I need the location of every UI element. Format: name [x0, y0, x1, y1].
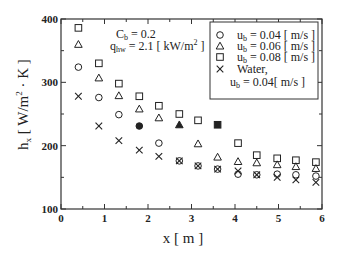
y-axis-title: hx [ W/m2 · K ]: [14, 59, 33, 150]
circle-marker: [313, 173, 320, 180]
x-marker: [195, 163, 202, 170]
x-marker: [274, 174, 281, 181]
legend-entry-4: Water,: [237, 62, 268, 76]
triangle-marker: [95, 74, 103, 81]
circle-marker: [156, 140, 163, 147]
triangle-marker: [234, 158, 242, 165]
legend-entry-4-cont: ub = 0.04[ m/s ]: [230, 75, 305, 90]
triangle-marker: [136, 105, 144, 112]
x-marker: [235, 168, 242, 175]
x-tick-label: 5: [276, 212, 282, 224]
square-marker: [156, 102, 163, 109]
x-marker: [214, 166, 221, 173]
x-tick-label: 3: [189, 212, 195, 224]
circle-marker: [136, 123, 143, 130]
square-marker: [116, 80, 123, 87]
x-marker: [253, 172, 260, 179]
x-marker: [156, 153, 163, 160]
scatter-chart: 0123456100200300400 hx [ W/m2 · K ] x [ …: [0, 0, 337, 257]
x-marker: [75, 93, 82, 100]
triangle-marker: [253, 159, 261, 166]
annotation: Cb = 0.2 qhw = 2.1 [ kW/m2 ]: [110, 27, 205, 54]
y-tick-label: 400: [42, 13, 59, 25]
x-marker: [293, 177, 300, 184]
triangle-marker: [194, 140, 202, 147]
circle-marker: [96, 94, 103, 101]
y-tick-label: 300: [42, 76, 59, 88]
x-axis-title: x [ m ]: [163, 230, 203, 246]
x-marker: [116, 137, 123, 144]
triangle-marker: [115, 92, 123, 99]
x-marker: [136, 147, 143, 154]
square-marker: [253, 152, 260, 159]
x-tick-label: 2: [145, 212, 151, 224]
y-tick-label: 200: [42, 140, 59, 152]
square-marker: [195, 117, 202, 124]
square-marker: [214, 121, 221, 128]
square-marker: [136, 93, 143, 100]
x-tick-label: 4: [232, 212, 238, 224]
x-marker: [176, 158, 183, 165]
circle-marker: [75, 64, 82, 71]
y-tick-label: 100: [42, 203, 59, 215]
circle-marker: [274, 171, 281, 178]
x-tick-label: 6: [319, 212, 325, 224]
triangle-marker: [214, 153, 222, 160]
triangle-marker: [176, 121, 184, 128]
circle-marker: [235, 171, 242, 178]
x-marker: [96, 123, 103, 130]
circle-marker: [116, 111, 123, 118]
triangle-marker: [155, 114, 163, 121]
square-marker: [235, 140, 242, 147]
x-tick-label: 0: [58, 212, 64, 224]
square-marker: [176, 111, 183, 118]
square-marker: [96, 60, 103, 67]
x-tick-label: 1: [102, 212, 108, 224]
square-marker: [75, 25, 82, 32]
legend: ub = 0.04 [ m/s ] ub = 0.06 [ m/s ] ub =…: [210, 22, 318, 99]
x-marker: [313, 179, 320, 186]
triangle-marker: [75, 41, 83, 48]
